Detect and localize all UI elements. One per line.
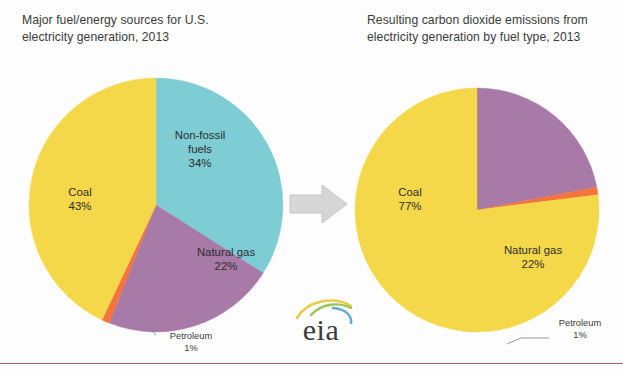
eia-wordmark: eia xyxy=(285,314,357,346)
bottom-divider xyxy=(0,363,623,364)
left-pie-chart xyxy=(28,77,286,335)
right-arrow-icon xyxy=(289,183,349,225)
right-petroleum-leader-line xyxy=(505,326,553,348)
right-pie-chart xyxy=(355,86,603,334)
right-chart-title: Resulting carbon dioxide emissions from … xyxy=(367,12,617,45)
right-pie-svg xyxy=(355,86,603,334)
left-chart-title: Major fuel/energy sources for U.S. elect… xyxy=(22,12,292,45)
eia-logo: eia xyxy=(285,296,357,352)
infographic-canvas: Major fuel/energy sources for U.S. elect… xyxy=(0,0,623,376)
left-pie-svg xyxy=(28,77,286,335)
transition-arrow xyxy=(289,183,349,225)
left-petroleum-leader-line xyxy=(140,318,174,340)
